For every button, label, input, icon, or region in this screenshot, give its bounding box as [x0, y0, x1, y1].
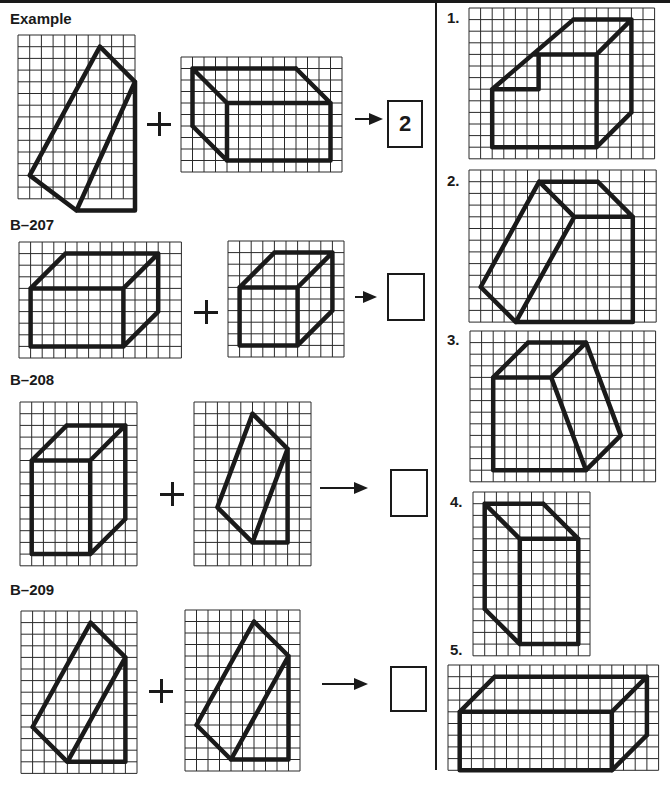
option-2-figure — [468, 169, 657, 323]
option-number: 2. — [447, 172, 460, 189]
grid-lines — [469, 170, 656, 322]
answer-box: 2 — [387, 100, 423, 148]
plus-icon — [160, 482, 184, 506]
option-3-figure — [469, 330, 657, 483]
problem-label: B–207 — [10, 216, 54, 233]
grid-lines — [185, 610, 300, 771]
option-5-figure — [447, 664, 660, 771]
grid-lines — [21, 611, 137, 773]
grid-figure-second — [184, 609, 301, 772]
grid-figure-first — [20, 610, 138, 774]
arrow-right-icon — [355, 113, 383, 125]
column-divider — [435, 0, 437, 770]
grid-figure-second — [227, 240, 345, 358]
problem-label: B–208 — [10, 371, 54, 388]
answer-box[interactable] — [390, 666, 427, 712]
arrow-right-icon — [322, 678, 368, 690]
solid-shape-outline — [493, 343, 621, 471]
grid-figure-second — [193, 401, 312, 567]
answer-box[interactable] — [387, 273, 425, 321]
grid-figure-second — [180, 56, 343, 173]
arrow-right-icon — [355, 291, 377, 303]
option-1-figure — [468, 7, 656, 160]
problem-label: B–209 — [10, 581, 54, 598]
arrow-right-icon — [320, 482, 368, 494]
grid-figure-first — [19, 401, 138, 567]
problem-label: Example — [10, 10, 72, 27]
option-number: 4. — [450, 493, 463, 510]
plus-icon — [194, 300, 218, 324]
grid-lines — [473, 492, 590, 656]
grid-figure-first — [17, 34, 136, 200]
option-4-figure — [472, 491, 591, 657]
grid-lines — [181, 57, 342, 172]
plus-icon — [147, 112, 171, 136]
plus-icon — [149, 679, 173, 703]
answer-box[interactable] — [390, 469, 428, 517]
option-number: 3. — [447, 331, 460, 348]
top-rule — [0, 0, 670, 3]
option-number: 5. — [450, 641, 463, 658]
grid-figure-first — [18, 241, 182, 359]
option-number: 1. — [447, 9, 460, 26]
